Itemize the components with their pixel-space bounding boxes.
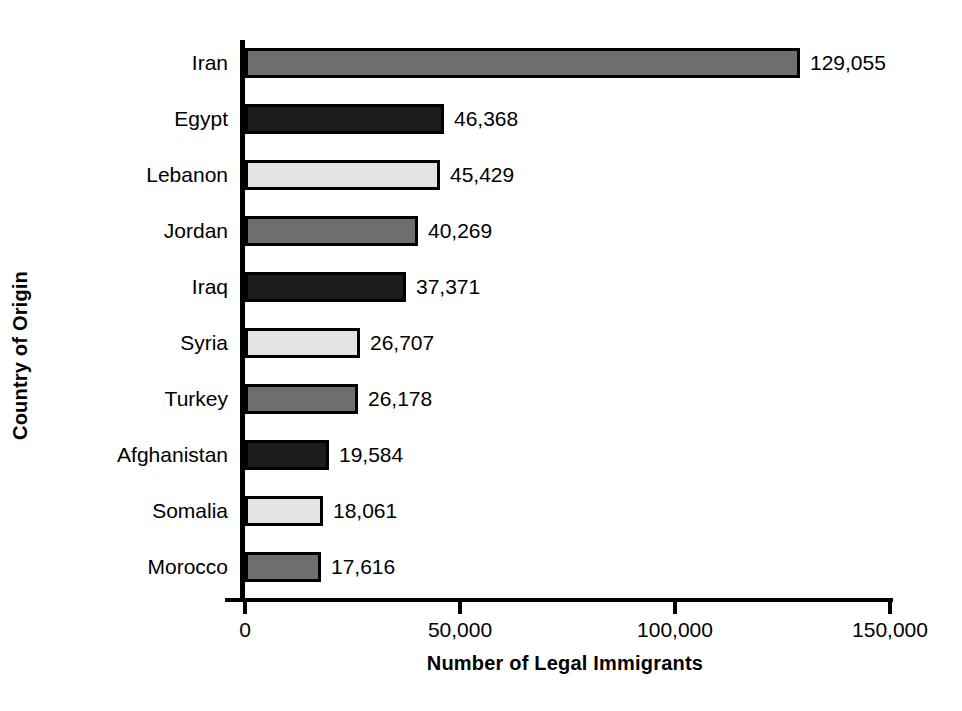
bar-row: 46,368	[245, 104, 900, 134]
bar-value-label: 40,269	[428, 216, 492, 246]
bar[interactable]	[245, 48, 800, 78]
bar-row: 19,584	[245, 440, 900, 470]
bar-row: 26,178	[245, 384, 900, 414]
x-tick-label: 100,000	[637, 618, 713, 642]
bar-value-label: 17,616	[331, 552, 395, 582]
bar-chart: Country of Origin IranEgyptLebanonJordan…	[0, 0, 962, 711]
bar[interactable]	[245, 328, 360, 358]
bar-row: 17,616	[245, 552, 900, 582]
bar[interactable]	[245, 160, 440, 190]
bar-value-label: 129,055	[810, 48, 886, 78]
bar-row: 18,061	[245, 496, 900, 526]
bar-value-label: 26,178	[368, 384, 432, 414]
category-label: Egypt	[174, 104, 228, 134]
x-axis-ticks: 050,000100,000150,000	[240, 598, 940, 658]
plot-area: 129,05546,36845,42940,26937,37126,70726,…	[240, 40, 900, 601]
category-label: Afghanistan	[117, 440, 228, 470]
x-tick-mark	[243, 598, 247, 614]
x-axis-title: Number of Legal Immigrants	[240, 652, 890, 675]
x-tick-mark	[458, 598, 462, 614]
x-tick-label: 0	[239, 618, 251, 642]
category-label: Syria	[180, 328, 228, 358]
category-label: Jordan	[164, 216, 228, 246]
x-tick-label: 50,000	[428, 618, 492, 642]
bar[interactable]	[245, 440, 329, 470]
x-tick-label: 150,000	[852, 618, 928, 642]
bar[interactable]	[245, 104, 444, 134]
bar-row: 40,269	[245, 216, 900, 246]
bar-value-label: 19,584	[339, 440, 403, 470]
bar-value-label: 45,429	[450, 160, 514, 190]
category-label: Morocco	[147, 552, 228, 582]
bar-value-label: 37,371	[416, 272, 480, 302]
category-label: Iraq	[192, 272, 228, 302]
category-label: Iran	[192, 48, 228, 78]
bar[interactable]	[245, 552, 321, 582]
y-axis-title: Country of Origin	[0, 0, 40, 711]
category-label: Lebanon	[146, 160, 228, 190]
bar-row: 45,429	[245, 160, 900, 190]
bar-row: 26,707	[245, 328, 900, 358]
x-tick-mark	[673, 598, 677, 614]
category-label: Turkey	[165, 384, 228, 414]
bar[interactable]	[245, 496, 323, 526]
bar-value-label: 26,707	[370, 328, 434, 358]
bar[interactable]	[245, 216, 418, 246]
x-tick-mark	[888, 598, 892, 614]
bar-row: 37,371	[245, 272, 900, 302]
bar[interactable]	[245, 272, 406, 302]
bar-value-label: 18,061	[333, 496, 397, 526]
category-label: Somalia	[152, 496, 228, 526]
bar[interactable]	[245, 384, 358, 414]
bar-row: 129,055	[245, 48, 900, 78]
bar-value-label: 46,368	[454, 104, 518, 134]
y-axis-category-labels: IranEgyptLebanonJordanIraqSyriaTurkeyAfg…	[40, 40, 236, 601]
